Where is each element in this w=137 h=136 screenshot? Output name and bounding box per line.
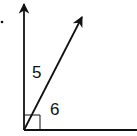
right-angle-marker xyxy=(24,115,40,130)
angle-diagram: 5 6 xyxy=(0,0,137,136)
stray-dot xyxy=(1,21,4,24)
angle-5-label: 5 xyxy=(32,63,41,82)
angle-6-label: 6 xyxy=(50,100,59,119)
